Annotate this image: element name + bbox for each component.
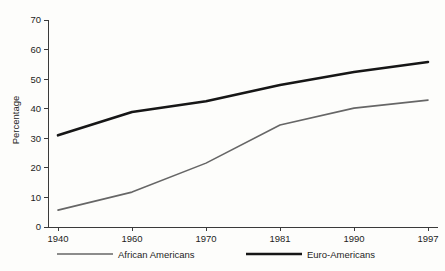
x-tick-label: 1990 xyxy=(343,233,364,244)
y-tick-label: 60 xyxy=(30,44,41,55)
y-tick-label: 10 xyxy=(30,192,41,203)
y-tick-label: 40 xyxy=(30,103,41,114)
y-tick-label: 50 xyxy=(30,74,41,85)
x-tick-label: 1981 xyxy=(269,233,290,244)
x-tick-label: 1960 xyxy=(121,233,142,244)
x-tick-label: 1997 xyxy=(417,233,438,244)
legend-item-label[interactable]: Euro-Americans xyxy=(307,249,375,260)
x-tick-label: 1940 xyxy=(47,233,68,244)
chart-figure: 010203040506070 194019601970198119901997… xyxy=(0,0,445,271)
y-axis-title: Percentage xyxy=(10,96,21,145)
y-tick-label: 20 xyxy=(30,162,41,173)
y-tick-label: 0 xyxy=(36,221,41,232)
line-chart: 010203040506070 194019601970198119901997… xyxy=(0,0,445,271)
y-tick-label: 70 xyxy=(30,14,41,25)
chart-background xyxy=(0,0,445,271)
y-tick-label: 30 xyxy=(30,133,41,144)
legend-item-label[interactable]: African Americans xyxy=(118,249,195,260)
x-tick-label: 1970 xyxy=(195,233,216,244)
